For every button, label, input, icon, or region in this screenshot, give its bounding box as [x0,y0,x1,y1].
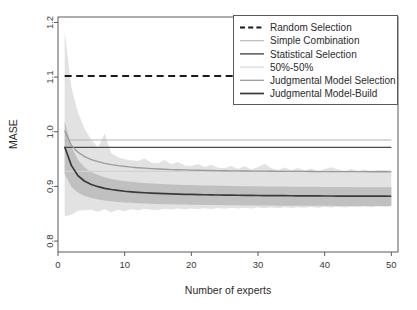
mase-vs-number-of-experts-chart: 0.80.91.01.11.2 01020304050 MASE Number … [0,0,417,310]
y-tick-label: 1.1 [45,71,56,84]
legend-label-judgmental-model-selection[interactable]: Judgmental Model Selection [270,75,396,86]
x-tick-label: 0 [55,259,60,270]
y-tick-label: 0.8 [45,234,56,247]
legend-label-random-selection[interactable]: Random Selection [270,22,352,33]
x-tick-label: 40 [319,259,330,270]
legend-label-simple-combination[interactable]: Simple Combination [270,35,360,46]
x-tick-label: 50 [386,259,397,270]
y-axis-ticks: 0.80.91.01.11.2 [45,16,59,248]
chart-figure: 0.80.91.01.11.2 01020304050 MASE Number … [0,0,417,310]
y-tick-label: 1.2 [45,16,56,29]
y-tick-label: 0.9 [45,180,56,193]
legend-label-50-50[interactable]: 50%-50% [270,62,313,73]
x-tick-label: 20 [186,259,197,270]
chart-legend[interactable]: Random SelectionSimple CombinationStatis… [234,16,398,105]
x-axis-ticks: 01020304050 [55,252,396,270]
y-axis-title: MASE [7,119,19,149]
y-tick-label: 1.0 [45,125,56,138]
legend-label-judgmental-model-build[interactable]: Judgmental Model-Build [270,88,377,99]
legend-label-statistical-selection[interactable]: Statistical Selection [270,49,357,60]
x-tick-label: 30 [253,259,264,270]
x-axis-title: Number of experts [185,284,271,296]
x-tick-label: 10 [119,259,130,270]
